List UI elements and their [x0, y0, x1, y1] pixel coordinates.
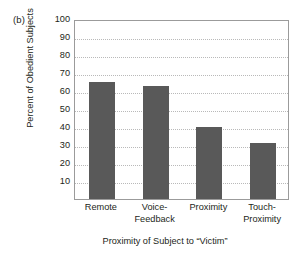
bar [89, 82, 115, 199]
x-tick-label-line: Feedback [119, 214, 191, 226]
y-tick-label: 100 [44, 15, 70, 24]
panel-label: (b) [13, 14, 25, 25]
y-tick-label: 20 [44, 159, 70, 168]
y-tick-label: 70 [44, 69, 70, 78]
x-tick-label-line: Proximity [226, 214, 298, 226]
x-axis-tick-labels: RemoteVoice-FeedbackProximityTouch-Proxi… [74, 202, 289, 236]
figure-panel-b: (b) Percent of Obedient Subjects 1020304… [0, 0, 306, 261]
y-axis-title: Percent of Obedient Subjects [25, 0, 35, 148]
gridline [75, 75, 288, 76]
y-tick-label: 60 [44, 87, 70, 96]
x-tick-label-line: Touch- [226, 202, 298, 214]
y-axis-tick-labels: 102030405060708090100 [42, 20, 70, 200]
bar [196, 127, 222, 199]
y-tick-label: 10 [44, 177, 70, 186]
y-tick-label: 30 [44, 141, 70, 150]
bar [250, 143, 276, 199]
gridline [75, 57, 288, 58]
y-tick-label: 50 [44, 105, 70, 114]
x-tick-label: Touch-Proximity [226, 202, 298, 225]
y-tick-label: 90 [44, 33, 70, 42]
bar [143, 86, 169, 199]
y-tick-label: 40 [44, 123, 70, 132]
x-axis-title: Proximity of Subject to “Victim” [0, 236, 306, 246]
gridline [75, 39, 288, 40]
y-tick-label: 80 [44, 51, 70, 60]
plot-area [74, 20, 289, 200]
